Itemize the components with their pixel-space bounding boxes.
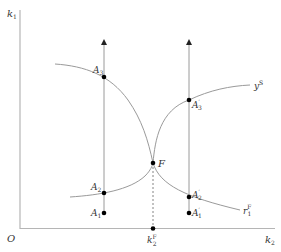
point-A1-prime: [187, 211, 192, 216]
point-A3-prime: [187, 98, 192, 103]
label-supply-curve: yS: [253, 79, 263, 91]
label-A1-prime: A′1: [191, 206, 202, 219]
x-axis-label: k2: [265, 234, 275, 246]
economic-diagram: k1 k2 O A3 A2 A1 A′3 A′2 A′1 F yS rF1 kF…: [0, 0, 281, 252]
label-reaction-curve: rF1: [243, 203, 251, 217]
point-F: [151, 161, 156, 166]
point-A2: [102, 191, 107, 196]
curve-descending: [55, 64, 240, 210]
label-A3-prime: A′3: [191, 98, 202, 111]
origin-label: O: [7, 233, 15, 244]
point-A1: [102, 211, 107, 216]
point-A2-prime: [187, 195, 192, 200]
y-axis-label: k1: [7, 8, 17, 20]
label-A3: A3: [92, 65, 104, 76]
label-F: F: [157, 158, 166, 169]
label-A2: A2: [90, 182, 102, 193]
label-A1: A1: [90, 208, 101, 219]
label-A2-prime: A′2: [191, 188, 202, 201]
label-k2F: kF2: [147, 233, 157, 247]
curve-ascending: [70, 85, 250, 197]
point-k2F: [151, 226, 156, 231]
